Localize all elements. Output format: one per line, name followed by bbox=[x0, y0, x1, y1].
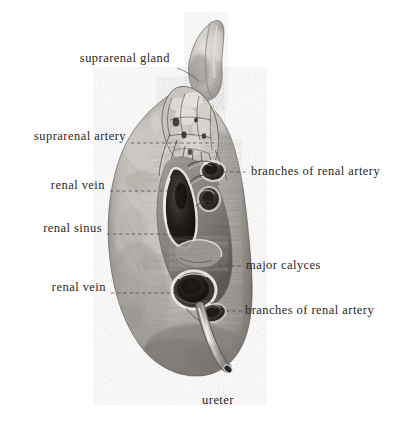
label-branches-of-renal-artery-upper-text: branches of renal artery bbox=[251, 164, 380, 178]
label-suprarenal-artery: suprarenal artery bbox=[0, 130, 126, 143]
label-suprarenal-gland: suprarenal gland bbox=[0, 52, 170, 65]
renal-artery-branch-opening-b bbox=[198, 187, 220, 211]
label-ureter-text: ureter bbox=[202, 393, 234, 407]
label-renal-sinus-text: renal sinus bbox=[43, 221, 102, 235]
specimen-illustration bbox=[0, 0, 405, 431]
label-renal-vein-upper: renal vein bbox=[0, 179, 105, 192]
renal-vein-opening-lower bbox=[172, 271, 216, 309]
label-ureter: ureter bbox=[183, 394, 253, 407]
label-suprarenal-gland-text: suprarenal gland bbox=[80, 51, 170, 65]
label-renal-vein-upper-text: renal vein bbox=[51, 178, 105, 192]
anatomical-plate: suprarenal gland suprarenal artery renal… bbox=[0, 0, 405, 431]
label-major-calyces: major calyces bbox=[246, 259, 321, 272]
label-major-calyces-text: major calyces bbox=[246, 258, 321, 272]
label-branches-of-renal-artery-lower: branches of renal artery bbox=[245, 304, 374, 317]
label-renal-vein-lower: renal vein bbox=[0, 281, 106, 294]
label-branches-of-renal-artery-lower-text: branches of renal artery bbox=[245, 303, 374, 317]
label-branches-of-renal-artery-upper: branches of renal artery bbox=[251, 165, 380, 178]
label-renal-vein-lower-text: renal vein bbox=[52, 280, 106, 294]
label-renal-sinus: renal sinus bbox=[0, 222, 102, 235]
label-suprarenal-artery-text: suprarenal artery bbox=[34, 129, 126, 143]
